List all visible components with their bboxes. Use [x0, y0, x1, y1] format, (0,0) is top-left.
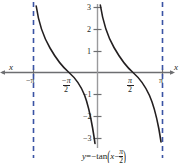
- x-tick-label-neg-pi: −π: [26, 77, 35, 85]
- equation-fn: tan: [96, 151, 107, 161]
- x-axis-left-arrow: [0, 70, 5, 74]
- x-tick-label-pi: π: [159, 77, 163, 85]
- y-tick-label-neg3: −3: [83, 135, 92, 143]
- x-tick-pi-over-2-denominator: 2: [124, 86, 136, 94]
- tangent-graph-figure: 3 2 1 −1 −2 −3 −π π −π 2 π 2 x x y=−tan(…: [0, 0, 181, 163]
- x-axis-label-left: x: [9, 63, 13, 72]
- equation-open-paren: (: [107, 149, 110, 163]
- y-tick-label-3: 3: [87, 4, 91, 12]
- x-tick-label-pi-over-2: π 2: [124, 77, 136, 94]
- y-tick-label-neg2: −2: [83, 113, 92, 121]
- x-tick-pi-over-2-numerator: π: [124, 77, 136, 85]
- equation-close-paren: ): [123, 149, 126, 163]
- x-tick-neg-pi-over-2-denominator: 2: [59, 86, 73, 94]
- y-tick-label-1: 1: [87, 48, 91, 56]
- x-tick-label-neg-pi-over-2: −π 2: [59, 77, 73, 94]
- equation-caption: y=−tan(x−π2): [82, 148, 126, 163]
- x-tick-neg-pi-over-2-numerator: −π: [59, 77, 73, 85]
- y-tick-label-neg1: −1: [83, 91, 92, 99]
- curve-right-branch: [100, 5, 161, 142]
- y-tick-label-2: 2: [87, 26, 91, 34]
- x-axis-label-right: x: [174, 63, 178, 72]
